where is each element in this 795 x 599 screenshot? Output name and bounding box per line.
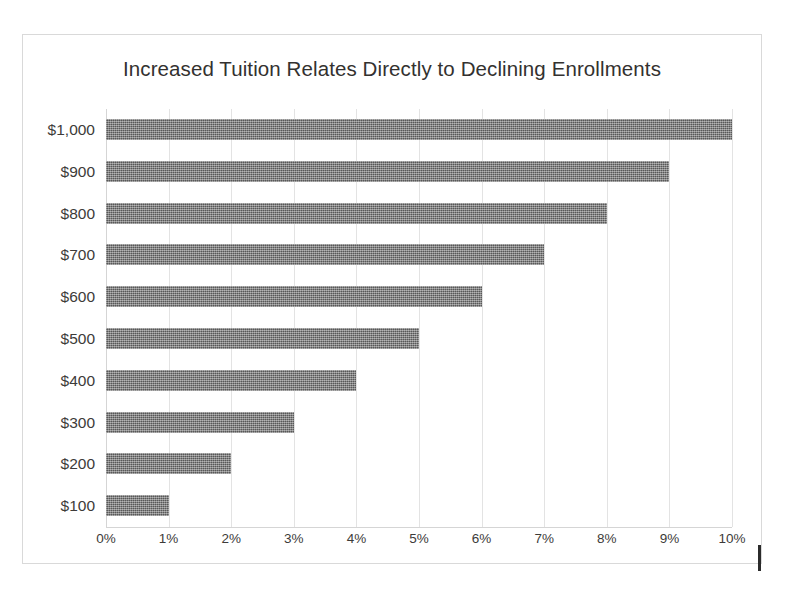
x-axis-tick-label: 2% bbox=[221, 531, 241, 546]
chart-frame: Increased Tuition Relates Directly to De… bbox=[22, 34, 762, 564]
bar[interactable] bbox=[106, 286, 482, 307]
bar-row: $100 bbox=[106, 485, 732, 527]
scan-artifact-mark bbox=[758, 545, 761, 571]
bar[interactable] bbox=[106, 495, 169, 516]
bar[interactable] bbox=[106, 161, 669, 182]
y-axis-label: $100 bbox=[61, 495, 95, 516]
bar-row: $800 bbox=[106, 193, 732, 235]
gridline-10pct bbox=[732, 109, 733, 527]
x-axis-line bbox=[106, 527, 732, 528]
bar[interactable] bbox=[106, 328, 419, 349]
bar[interactable] bbox=[106, 203, 607, 224]
bar-row: $200 bbox=[106, 443, 732, 485]
x-axis-tick-label: 7% bbox=[534, 531, 554, 546]
bar[interactable] bbox=[106, 412, 294, 433]
y-axis-label: $1,000 bbox=[48, 119, 95, 140]
y-axis-label: $200 bbox=[61, 453, 95, 474]
bar[interactable] bbox=[106, 119, 732, 140]
x-axis-tick-label: 4% bbox=[347, 531, 367, 546]
y-axis-label: $700 bbox=[61, 244, 95, 265]
x-axis-tick-label: 3% bbox=[284, 531, 304, 546]
x-axis-tick-label: 9% bbox=[660, 531, 680, 546]
y-axis-label: $400 bbox=[61, 370, 95, 391]
x-axis-tick-label: 1% bbox=[159, 531, 179, 546]
plot-area: $1,000$900$800$700$600$500$400$300$200$1… bbox=[106, 109, 732, 527]
y-axis-label: $600 bbox=[61, 286, 95, 307]
x-axis-tick-label: 10% bbox=[718, 531, 745, 546]
y-axis-label: $900 bbox=[61, 161, 95, 182]
bar[interactable] bbox=[106, 370, 356, 391]
x-axis-tick-labels: 0%1%2%3%4%5%6%7%8%9%10% bbox=[106, 531, 732, 553]
bar-row: $1,000 bbox=[106, 109, 732, 151]
bar-row: $700 bbox=[106, 234, 732, 276]
x-axis-tick-label: 8% bbox=[597, 531, 617, 546]
x-axis-tick-label: 6% bbox=[472, 531, 492, 546]
bar-row: $600 bbox=[106, 276, 732, 318]
bar[interactable] bbox=[106, 244, 544, 265]
bar[interactable] bbox=[106, 453, 231, 474]
chart-title: Increased Tuition Relates Directly to De… bbox=[23, 57, 761, 81]
bar-row: $900 bbox=[106, 151, 732, 193]
bar-row: $500 bbox=[106, 318, 732, 360]
y-axis-label: $500 bbox=[61, 328, 95, 349]
bar-row: $300 bbox=[106, 402, 732, 444]
x-axis-tick-label: 0% bbox=[96, 531, 116, 546]
y-axis-label: $800 bbox=[61, 203, 95, 224]
bar-row: $400 bbox=[106, 360, 732, 402]
x-axis-tick-label: 5% bbox=[409, 531, 429, 546]
y-axis-label: $300 bbox=[61, 412, 95, 433]
